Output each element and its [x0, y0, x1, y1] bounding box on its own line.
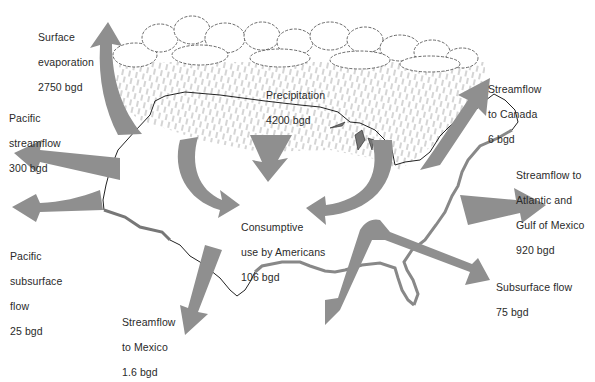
label-precipitation: Precipitation 4200 bgd — [266, 76, 325, 139]
label-line: use by Americans — [241, 246, 325, 259]
label-streamflow-atlantic: Streamflow to Atlantic and Gulf of Mexic… — [516, 156, 585, 269]
label-surface-evaporation: Surface evaporation 2750 bgd — [38, 18, 94, 106]
label-value: 4200 bgd — [266, 114, 325, 127]
label-value: 25 bgd — [10, 325, 62, 338]
label-streamflow-canada: Streamflow to Canada 6 bgd — [488, 70, 542, 158]
label-line: subsurface — [10, 275, 62, 288]
label-value: 6 bgd — [488, 133, 542, 146]
label-value: 300 bgd — [9, 162, 61, 175]
label-line: streamflow — [9, 137, 61, 150]
label-line: Precipitation — [266, 89, 325, 102]
label-value: 920 bgd — [516, 244, 585, 257]
label-consumptive-use: Consumptive use by Americans 106 bgd — [241, 208, 325, 296]
label-line: Pacific — [10, 250, 62, 263]
label-line: Atlantic and — [516, 194, 585, 207]
label-line: Streamflow — [488, 83, 542, 96]
label-value: 106 bgd — [241, 271, 325, 284]
label-line: Consumptive — [241, 221, 325, 234]
label-value: 75 bgd — [496, 306, 572, 319]
label-line: to Canada — [488, 108, 542, 121]
label-line: Subsurface flow — [496, 281, 572, 294]
label-pacific-subsurface: Pacific subsurface flow 25 bgd — [10, 237, 62, 350]
label-subsurface-flow: Subsurface flow 75 bgd — [496, 268, 572, 331]
label-line: Streamflow — [122, 316, 176, 329]
label-line: evaporation — [38, 56, 94, 69]
label-pacific-streamflow: Pacific streamflow 300 bgd — [9, 99, 61, 187]
label-line: Surface — [38, 31, 94, 44]
label-value: 1.6 bgd — [122, 366, 176, 379]
label-line: Pacific — [9, 112, 61, 125]
label-line: Gulf of Mexico — [516, 219, 585, 232]
label-streamflow-mexico: Streamflow to Mexico 1.6 bgd — [122, 303, 176, 382]
label-value: 2750 bgd — [38, 81, 94, 94]
label-line: Streamflow to — [516, 169, 585, 182]
label-line: flow — [10, 300, 62, 313]
label-line: to Mexico — [122, 341, 176, 354]
